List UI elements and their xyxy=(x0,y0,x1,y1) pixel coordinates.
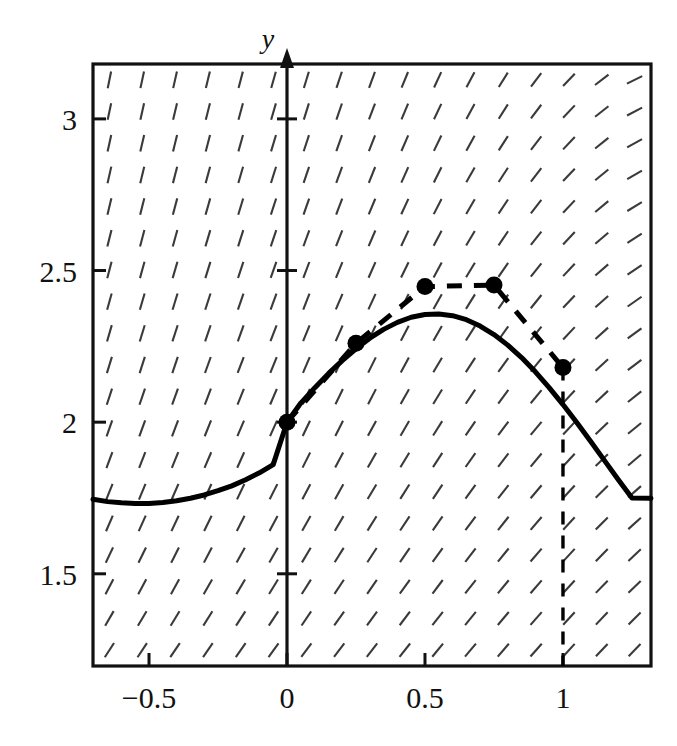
euler-point-marker xyxy=(485,277,502,294)
y-tick-label: 2.5 xyxy=(40,255,78,288)
slope-field-plot: −0.500.511.522.53 y xyxy=(0,0,677,746)
figure-container: −0.500.511.522.53 y xyxy=(0,0,677,746)
euler-point-marker xyxy=(554,359,571,376)
euler-point-marker xyxy=(416,278,433,295)
y-tick-label: 2 xyxy=(62,406,77,439)
x-tick-label: −0.5 xyxy=(122,681,176,714)
x-tick-label: 1 xyxy=(555,681,570,714)
y-axis-label: y xyxy=(259,23,275,54)
y-tick-label: 1.5 xyxy=(40,558,78,591)
y-tick-label: 3 xyxy=(62,103,77,136)
euler-point-marker xyxy=(279,414,296,431)
x-tick-label: 0.5 xyxy=(406,681,444,714)
x-tick-label: 0 xyxy=(280,681,295,714)
euler-point-marker xyxy=(347,335,364,352)
